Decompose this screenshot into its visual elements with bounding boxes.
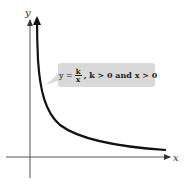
fraction-denominator: x xyxy=(76,76,80,83)
equation-label: y = k x , k > 0 and x > 0 xyxy=(59,64,154,86)
equation-conditions: , k > 0 and x > 0 xyxy=(84,70,158,80)
fraction: k x xyxy=(75,68,82,83)
x-axis-label: x xyxy=(173,152,179,163)
graph-canvas: y x xyxy=(0,0,185,188)
equation-lhs: y = xyxy=(59,71,73,80)
callout-pointer xyxy=(46,72,60,85)
y-axis-label: y xyxy=(24,7,31,18)
